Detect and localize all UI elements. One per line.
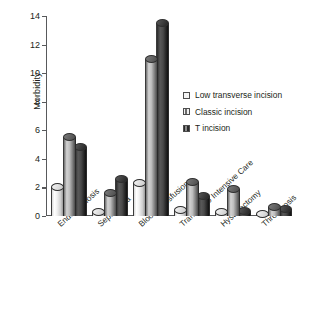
bar-1 <box>92 208 105 216</box>
bar-3 <box>74 143 87 216</box>
y-tick-label: 8 <box>35 97 40 107</box>
bar-body <box>145 59 158 216</box>
bar-1 <box>51 183 64 216</box>
bar-3 <box>279 205 292 216</box>
bar-cap <box>279 205 292 213</box>
bar-body <box>133 183 146 216</box>
y-tick-label: 0 <box>35 211 40 221</box>
x-axis-category-labels: EndometriosisSepticemiaBlood transfusion… <box>46 220 292 312</box>
bar-body <box>63 137 76 216</box>
bar-group <box>92 16 133 216</box>
bar-cap <box>215 208 228 216</box>
y-tick <box>42 102 46 103</box>
bar-body <box>51 187 64 216</box>
bar-2 <box>104 189 117 216</box>
bar-cap <box>227 185 240 193</box>
morbidity-bar-chart: Morbidity 02468101214 EndometriosisSepti… <box>0 0 311 312</box>
bar-2 <box>145 55 158 216</box>
bar-2 <box>186 178 199 216</box>
bar-group <box>133 16 174 216</box>
bar-2 <box>227 185 240 216</box>
legend-item-t-incision: T incision <box>183 123 282 133</box>
legend-label: Classic incision <box>195 107 252 117</box>
bar-body <box>227 189 240 216</box>
bar-1 <box>174 206 187 216</box>
bar-cap <box>256 210 269 218</box>
bar-body <box>156 23 169 216</box>
bar-3 <box>238 207 251 216</box>
bar-1 <box>215 208 228 216</box>
y-tick <box>42 45 46 46</box>
chart-legend: Low transverse incision Classic incision… <box>183 90 282 140</box>
legend-swatch-icon <box>183 125 190 132</box>
y-tick-label: 12 <box>30 40 40 50</box>
y-tick-label: 2 <box>35 182 40 192</box>
y-tick-label: 10 <box>30 68 40 78</box>
bar-cap <box>145 55 158 63</box>
bar-2 <box>268 203 281 216</box>
bar-2 <box>63 133 76 216</box>
bar-body <box>115 179 128 216</box>
bar-cap <box>115 175 128 183</box>
legend-label: Low transverse incision <box>195 90 282 100</box>
y-tick <box>42 73 46 74</box>
y-tick <box>42 216 46 217</box>
bar-cap <box>186 178 199 186</box>
legend-item-low-transverse-incision: Low transverse incision <box>183 90 282 100</box>
legend-item-classic-incision: Classic incision <box>183 107 282 117</box>
y-tick <box>42 16 46 17</box>
bar-3 <box>197 192 210 216</box>
bar-group <box>51 16 92 216</box>
bar-1 <box>256 210 269 216</box>
legend-label: T incision <box>195 123 230 133</box>
y-tick-label: 4 <box>35 154 40 164</box>
bar-body <box>186 182 199 216</box>
bar-1 <box>133 179 146 216</box>
bar-body <box>74 147 87 216</box>
y-tick-label: 6 <box>35 125 40 135</box>
y-tick <box>42 130 46 131</box>
legend-swatch-icon <box>183 92 190 99</box>
legend-swatch-icon <box>183 108 190 115</box>
y-axis-line <box>46 16 47 216</box>
y-axis-title: Morbidity <box>32 56 42 126</box>
bar-cap <box>238 207 251 215</box>
bar-cap <box>104 189 117 197</box>
y-tick-label: 14 <box>30 11 40 21</box>
bar-cap <box>92 208 105 216</box>
bar-3 <box>156 19 169 216</box>
y-tick <box>42 187 46 188</box>
bar-cap <box>197 192 210 200</box>
bar-3 <box>115 175 128 216</box>
y-tick <box>42 159 46 160</box>
